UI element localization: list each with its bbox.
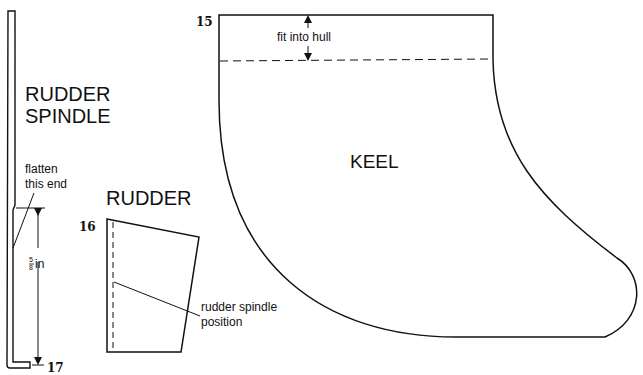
keel-part: 15 fit into hull KEEL	[196, 15, 637, 337]
keel-part-number: 15	[196, 15, 213, 29]
rudder-spindle-part: RUDDER SPINDLE flatten this end 5 8 in 1…	[7, 11, 111, 375]
pattern-diagram: RUDDER SPINDLE flatten this end 5 8 in 1…	[0, 0, 643, 375]
flatten-note-line1: flatten	[25, 162, 58, 176]
spindle-title-line2-visible: SPINDLE	[25, 105, 111, 127]
rudder-part: RUDDER 16 rudder spindle position	[79, 187, 277, 352]
rudder-note-line1: rudder spindle	[201, 300, 277, 314]
rudder-part-number: 16	[79, 220, 96, 234]
hull-fit-note: fit into hull	[277, 30, 331, 44]
spindle-title-line1: RUDDER	[25, 83, 111, 105]
flatten-leader-line	[13, 193, 34, 248]
rudder-spindle-leader-line	[114, 282, 200, 316]
dimension-denominator: 8	[29, 264, 33, 271]
rudder-note-line2: position	[201, 315, 242, 329]
rudder-title: RUDDER	[106, 187, 192, 209]
rudder-outline	[107, 219, 199, 352]
hull-fit-dashed-line	[220, 59, 492, 61]
dimension-numerator: 5	[29, 256, 33, 263]
spindle-part-number: 17	[47, 361, 64, 375]
keel-outline	[219, 15, 637, 337]
keel-title: KEEL	[350, 151, 399, 172]
dimension-unit: in	[35, 257, 44, 271]
flatten-note-line2: this end	[25, 177, 67, 191]
